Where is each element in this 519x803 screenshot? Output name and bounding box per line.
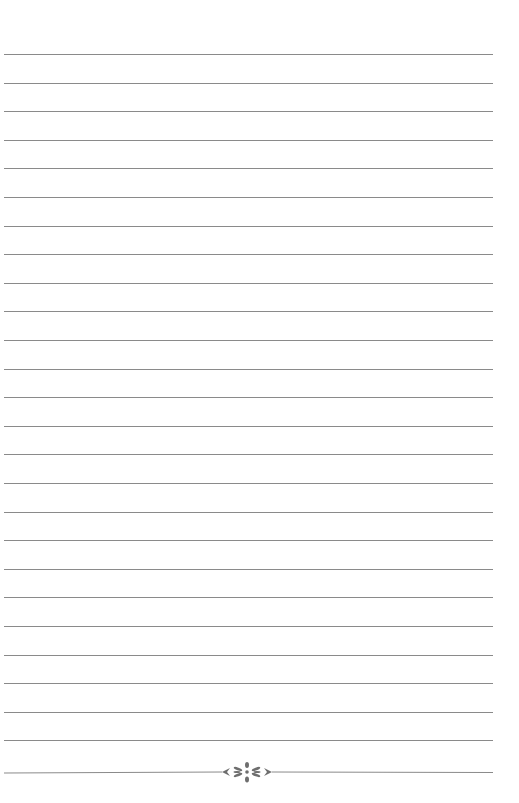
ruled-line xyxy=(4,397,493,398)
ruled-line xyxy=(4,83,493,84)
ruled-line xyxy=(4,655,493,656)
ruled-line xyxy=(4,283,493,284)
ruled-line xyxy=(4,540,493,541)
ruled-line xyxy=(4,740,493,741)
ruled-line xyxy=(4,426,493,427)
ruled-line xyxy=(4,369,493,370)
ruled-line xyxy=(4,311,493,312)
ruled-line xyxy=(4,683,493,684)
ruled-line xyxy=(4,197,493,198)
ruled-line xyxy=(4,111,493,112)
ruled-line xyxy=(4,597,493,598)
ruled-line xyxy=(4,340,493,341)
ruled-line xyxy=(4,454,493,455)
ruled-line xyxy=(4,54,493,55)
ruled-line xyxy=(4,512,493,513)
ruled-line xyxy=(4,254,493,255)
ruled-line xyxy=(4,140,493,141)
ruled-line xyxy=(4,168,493,169)
footer-divider xyxy=(4,760,493,786)
notebook-page xyxy=(0,0,519,803)
flower-divider-icon xyxy=(4,760,493,786)
ruled-line xyxy=(4,712,493,713)
ruled-line xyxy=(4,483,493,484)
ruled-line xyxy=(4,626,493,627)
ruled-line xyxy=(4,569,493,570)
ruled-line xyxy=(4,226,493,227)
